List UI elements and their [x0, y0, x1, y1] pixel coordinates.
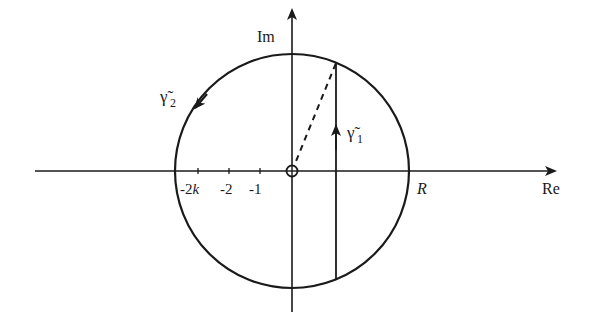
svg-text:2: 2 [170, 96, 176, 110]
x-axis-label: Re [542, 180, 560, 197]
y-axis-label: Im [257, 28, 275, 45]
radius-label: R [416, 180, 427, 197]
svg-text:1: 1 [357, 132, 363, 146]
gamma2-label: γ̃ 2 [159, 87, 176, 110]
tick-label-neg-1: -1 [249, 181, 262, 197]
gamma1-label: γ̃ 1 [346, 123, 363, 146]
origin-marker-icon [287, 166, 298, 177]
dashed-radius-line [292, 63, 336, 171]
tick-label-neg-2k: -2k [180, 181, 200, 197]
contour-diagram: Im Re R -2k -2 -1 γ̃ 1 γ̃ 2 [0, 0, 594, 328]
tick-label-neg-2: -2 [220, 181, 233, 197]
